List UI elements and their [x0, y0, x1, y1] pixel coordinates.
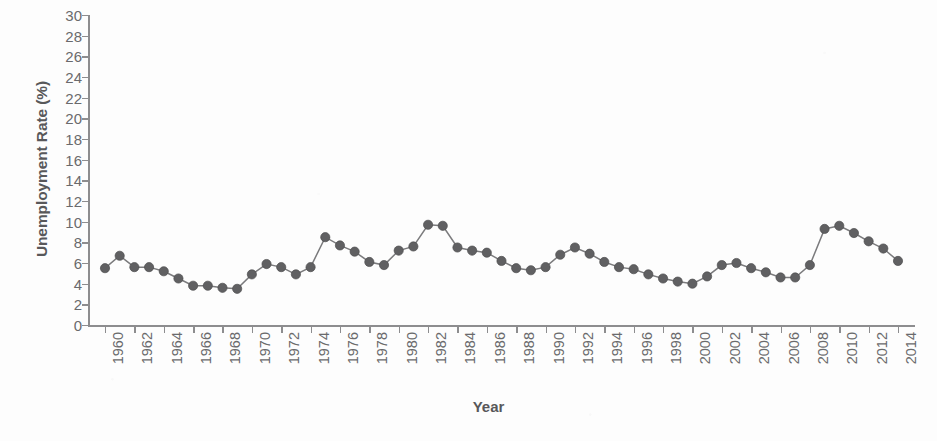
- y-tick-label: 10: [36, 214, 82, 229]
- x-tick-label: 1998: [669, 332, 684, 392]
- y-tick-label: 12: [36, 194, 82, 209]
- data-point: [203, 281, 212, 290]
- data-point: [864, 237, 873, 246]
- data-point: [570, 243, 579, 252]
- y-tick-label: 20: [36, 111, 82, 126]
- data-point: [350, 247, 359, 256]
- x-tick-label: 2014: [904, 332, 919, 392]
- data-point: [409, 242, 418, 251]
- data-point: [512, 264, 521, 273]
- x-tick-label: 1986: [493, 332, 508, 392]
- data-point: [365, 257, 374, 266]
- x-tick-label: 1974: [317, 332, 332, 392]
- y-tick-label: 8: [36, 235, 82, 250]
- data-point: [673, 277, 682, 286]
- data-point: [556, 250, 565, 259]
- data-point: [159, 267, 168, 276]
- data-point: [218, 283, 227, 292]
- x-tick-label: 1982: [434, 332, 449, 392]
- data-point: [468, 246, 477, 255]
- x-tick-label: 1964: [170, 332, 185, 392]
- y-tick-label: 14: [36, 173, 82, 188]
- x-tick-label: 2008: [816, 332, 831, 392]
- y-tick-mark: [82, 56, 88, 57]
- data-point: [541, 263, 550, 272]
- x-tick-label: 1992: [581, 332, 596, 392]
- x-axis-title: Year: [0, 398, 937, 415]
- y-tick-mark: [82, 77, 88, 78]
- x-tick-label: 1976: [346, 332, 361, 392]
- y-tick-mark: [82, 15, 88, 16]
- data-point: [761, 268, 770, 277]
- x-tick-label: 1994: [610, 332, 625, 392]
- data-point: [262, 259, 271, 268]
- data-point: [776, 273, 785, 282]
- x-tick-label: 1960: [111, 332, 126, 392]
- data-point: [453, 243, 462, 252]
- data-point: [526, 266, 535, 275]
- data-point: [394, 246, 403, 255]
- data-point: [291, 270, 300, 279]
- data-point: [791, 273, 800, 282]
- data-point: [233, 284, 242, 293]
- data-point: [732, 258, 741, 267]
- y-tick-mark: [82, 36, 88, 37]
- data-point: [130, 263, 139, 272]
- data-point: [379, 260, 388, 269]
- y-tick-mark: [82, 284, 88, 285]
- data-point: [747, 264, 756, 273]
- y-tick-mark: [82, 98, 88, 99]
- x-tick-label: 1966: [199, 332, 214, 392]
- x-tick-label: 2000: [698, 332, 713, 392]
- x-axis-tick-labels: 1960196219641966196819701972197419761978…: [88, 326, 915, 386]
- data-point: [321, 233, 330, 242]
- y-tick-label: 28: [36, 28, 82, 43]
- x-tick-label: 2006: [787, 332, 802, 392]
- y-tick-label: 0: [36, 318, 82, 333]
- data-point: [717, 260, 726, 269]
- plot-area: [88, 15, 915, 325]
- x-tick-label: 1972: [287, 332, 302, 392]
- y-tick-label: 6: [36, 256, 82, 271]
- data-point: [805, 260, 814, 269]
- data-point: [879, 244, 888, 253]
- y-tick-label: 22: [36, 90, 82, 105]
- x-tick-label: 2010: [845, 332, 860, 392]
- data-series: [88, 15, 915, 325]
- data-point: [335, 241, 344, 250]
- data-point: [658, 274, 667, 283]
- data-point: [688, 279, 697, 288]
- data-point: [893, 256, 902, 265]
- y-tick-mark: [82, 304, 88, 305]
- data-point: [189, 281, 198, 290]
- y-tick-mark: [82, 201, 88, 202]
- unemployment-rate-chart: Unemployment Rate (%) 024681012141618202…: [0, 0, 937, 441]
- data-point: [438, 221, 447, 230]
- data-point: [702, 272, 711, 281]
- x-tick-label: 1962: [140, 332, 155, 392]
- y-tick-label: 26: [36, 49, 82, 64]
- data-point: [629, 265, 638, 274]
- data-point: [277, 263, 286, 272]
- x-tick-label: 1984: [463, 332, 478, 392]
- y-axis-tick-labels: 024681012141618202224262830: [36, 6, 82, 326]
- x-tick-label: 1978: [375, 332, 390, 392]
- y-tick-mark: [82, 263, 88, 264]
- data-point: [614, 263, 623, 272]
- y-tick-label: 24: [36, 70, 82, 85]
- data-point: [849, 228, 858, 237]
- x-tick-label: 1970: [258, 332, 273, 392]
- data-point: [497, 256, 506, 265]
- data-point: [144, 263, 153, 272]
- data-point: [100, 264, 109, 273]
- y-tick-label: 30: [36, 8, 82, 23]
- data-point: [600, 257, 609, 266]
- data-point: [585, 249, 594, 258]
- data-point: [115, 251, 124, 260]
- y-tick-mark: [82, 118, 88, 119]
- y-tick-mark: [82, 222, 88, 223]
- data-point: [820, 224, 829, 233]
- y-tick-label: 4: [36, 276, 82, 291]
- y-tick-mark: [82, 139, 88, 140]
- data-point: [174, 274, 183, 283]
